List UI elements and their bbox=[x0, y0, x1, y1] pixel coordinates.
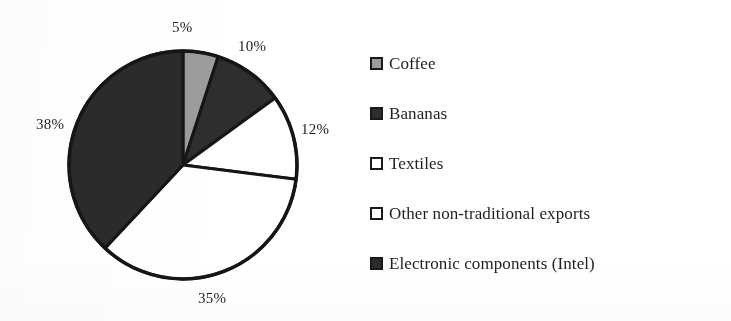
chart-area: 5% 10% 12% 35% 38% bbox=[0, 0, 370, 321]
legend-item-label: Coffee bbox=[389, 55, 436, 72]
legend-item-label: Electronic components (Intel) bbox=[389, 255, 595, 272]
legend-item: Coffee bbox=[370, 52, 725, 74]
data-label-other: 35% bbox=[198, 291, 226, 306]
legend-item-label: Textiles bbox=[389, 155, 443, 172]
legend-item: Electronic components (Intel) bbox=[370, 252, 725, 274]
pie-chart-figure: 5% 10% 12% 35% 38% CoffeeBananasTextiles… bbox=[0, 0, 731, 321]
legend: CoffeeBananasTextilesOther non-tradition… bbox=[370, 52, 725, 274]
pie-slices bbox=[69, 51, 297, 279]
legend-swatch-icon bbox=[370, 107, 383, 120]
data-label-textiles: 12% bbox=[301, 122, 329, 137]
pie-chart-svg bbox=[0, 0, 370, 321]
legend-item: Bananas bbox=[370, 102, 725, 124]
data-label-coffee: 5% bbox=[172, 20, 192, 35]
legend-item-label: Other non-traditional exports bbox=[389, 205, 590, 222]
data-label-electronics: 38% bbox=[36, 117, 64, 132]
legend-swatch-icon bbox=[370, 157, 383, 170]
legend-swatch-icon bbox=[370, 257, 383, 270]
legend-swatch-icon bbox=[370, 207, 383, 220]
legend-item-label: Bananas bbox=[389, 105, 447, 122]
legend-item: Textiles bbox=[370, 152, 725, 174]
legend-item: Other non-traditional exports bbox=[370, 202, 725, 224]
legend-swatch-icon bbox=[370, 57, 383, 70]
data-label-bananas: 10% bbox=[238, 39, 266, 54]
